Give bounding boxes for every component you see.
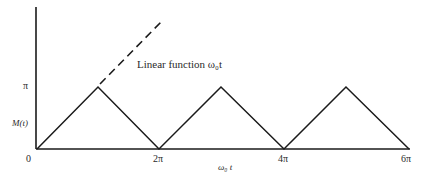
triangular-wave-line [37, 87, 409, 149]
x-tick-6pi: 6π [401, 154, 411, 164]
x-tick-4pi: 4π [278, 154, 288, 164]
annotation-linear-function: Linear function ω₀t [137, 59, 222, 70]
y-axis-label: M(t) [12, 119, 28, 128]
plot-canvas [0, 0, 426, 183]
x-tick-2pi: 2π [153, 154, 163, 164]
triangular-wave-diagram: Linear function ω₀t π M(t) 0 2π 4π 6π ω₀… [0, 0, 426, 183]
y-tick-pi: π [23, 81, 28, 91]
x-axis-label: ω₀ t [218, 163, 232, 172]
linear-function-dashed-line [100, 22, 161, 84]
x-tick-0: 0 [26, 154, 31, 164]
